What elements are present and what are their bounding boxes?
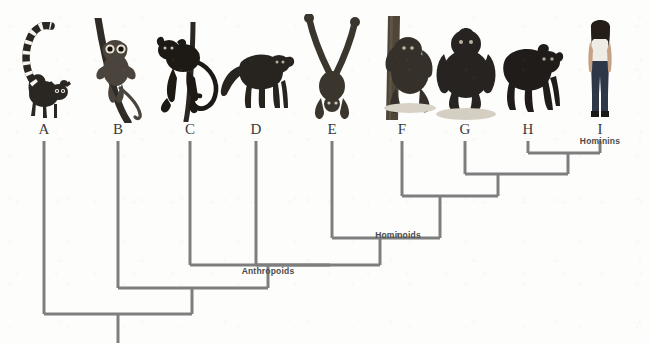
phylogenetic-tree-figure: A B C D E F G H I [0,0,650,343]
clade-label-hominoids: Hominoids [375,231,421,240]
clade-label-anthropoids: Anthropoids [242,267,295,276]
clade-label-hominins: Hominins [580,137,620,146]
cladogram-branches [0,0,650,343]
